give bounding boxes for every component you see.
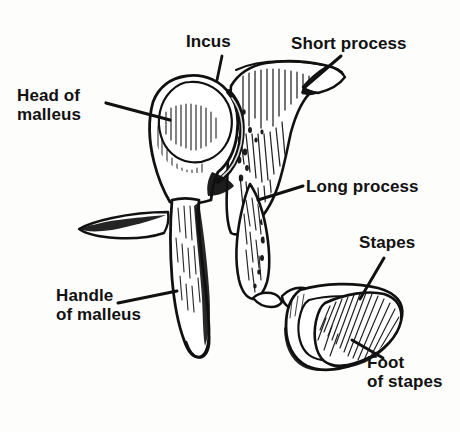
label-head-of-malleus: Head of malleus [17,86,81,124]
incus-long-process-part [237,184,282,307]
label-handle-of-malleus: Handle of malleus [56,286,141,324]
figure-canvas: Head of malleus Incus Short process Long… [0,0,460,432]
leader-incus [217,56,222,80]
label-stapes: Stapes [359,233,415,252]
malleus-handle-part [171,199,210,358]
malleus-head-part [150,75,242,203]
label-long-process: Long process [306,177,419,196]
label-foot-of-stapes: Foot of stapes [367,353,443,391]
malleus-anterior-process [79,212,168,238]
label-incus: Incus [186,32,231,51]
label-short-process: Short process [291,34,407,53]
